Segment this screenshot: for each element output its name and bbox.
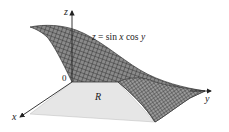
surface-plot-graphic (0, 0, 229, 132)
surface-plot-figure: z x y 0 R z = sin x cos y (0, 0, 229, 132)
equation-y: y (141, 32, 145, 42)
x-axis-label: x (12, 111, 16, 122)
equation-mid: cos (124, 32, 141, 42)
z-axis-label: z (64, 6, 68, 17)
region-label: R (95, 91, 101, 102)
equation-label: z = sin x cos y (92, 32, 145, 42)
equation-eq: = sin (96, 32, 120, 42)
y-axis-label: y (205, 93, 209, 104)
origin-label: 0 (62, 73, 67, 83)
